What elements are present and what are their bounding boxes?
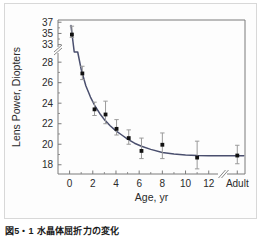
data-point-marker	[195, 156, 199, 160]
x-tick-label: 0	[67, 178, 73, 189]
figure-caption: 図5・1 水晶体屈折力の変化	[5, 226, 255, 237]
data-point-marker	[70, 33, 74, 37]
figure-container: 373533282624222018024681012AdultAge, yrL…	[0, 0, 263, 237]
x-tick-label: 10	[180, 178, 192, 189]
x-axis-title: Age, yr	[135, 191, 169, 203]
x-tick-label: 12	[203, 178, 215, 189]
y-axis-title: Lens Power, Diopters	[10, 47, 22, 147]
y-tick-label: 20	[42, 139, 54, 150]
y-tick-label: 35	[42, 28, 54, 39]
data-point-marker	[80, 72, 84, 76]
y-tick-label: 28	[42, 57, 54, 68]
data-point-marker	[127, 136, 131, 140]
y-tick-label: 22	[42, 118, 54, 129]
data-point-marker	[140, 149, 144, 153]
data-point-marker	[160, 143, 164, 147]
data-point-marker	[93, 107, 97, 111]
fit-curve	[71, 26, 244, 156]
x-tick-label: Adult	[226, 178, 249, 189]
x-tick-label: 2	[90, 178, 96, 189]
y-tick-label: 37	[42, 17, 54, 28]
x-tick-label: 4	[113, 178, 119, 189]
y-tick-label: 18	[42, 159, 54, 170]
y-tick-label: 26	[42, 77, 54, 88]
data-point-marker	[104, 113, 108, 117]
y-tick-label: 33	[42, 39, 54, 50]
x-tick-label: 8	[160, 178, 166, 189]
x-tick-label: 6	[136, 178, 142, 189]
data-point-marker	[235, 154, 239, 158]
y-tick-label: 24	[42, 98, 54, 109]
lens-power-chart: 373533282624222018024681012AdultAge, yrL…	[0, 0, 263, 237]
data-point-marker	[115, 127, 119, 131]
